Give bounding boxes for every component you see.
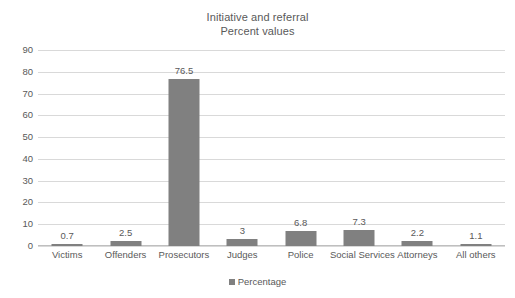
bar[interactable] bbox=[285, 231, 316, 246]
x-axis-tick-label: Police bbox=[272, 249, 330, 261]
x-axis-tick-label: Judges bbox=[213, 249, 271, 261]
legend-swatch-icon bbox=[229, 279, 235, 285]
bar-group: 2.5 bbox=[96, 50, 154, 246]
y-axis-tick-label: 0 bbox=[5, 241, 33, 251]
y-axis: 0102030405060708090 bbox=[0, 50, 33, 246]
bar[interactable] bbox=[460, 244, 491, 246]
bar-value-label: 2.2 bbox=[411, 227, 424, 238]
chart-title: Initiative and referral Percent values bbox=[0, 10, 515, 38]
bar[interactable] bbox=[110, 241, 141, 246]
bar-value-label: 76.5 bbox=[175, 65, 194, 76]
bar-group: 6.8 bbox=[272, 50, 330, 246]
legend-label: Percentage bbox=[238, 276, 287, 287]
y-axis-tick-label: 80 bbox=[5, 67, 33, 77]
bar-group: 3 bbox=[213, 50, 271, 246]
bar[interactable] bbox=[344, 230, 375, 246]
chart-title-line1: Initiative and referral bbox=[207, 11, 309, 23]
chart-legend: Percentage bbox=[0, 276, 515, 287]
y-axis-tick-label: 90 bbox=[5, 45, 33, 55]
bar-value-label: 7.3 bbox=[352, 216, 365, 227]
bar[interactable] bbox=[402, 241, 433, 246]
bar-series-percentage: 0.72.576.536.87.32.21.1 bbox=[38, 50, 505, 246]
bar-group: 0.7 bbox=[38, 50, 96, 246]
x-axis: VictimsOffendersProsecutorsJudgesPoliceS… bbox=[38, 249, 505, 265]
x-axis-tick-label: All others bbox=[447, 249, 505, 261]
y-axis-tick-label: 40 bbox=[5, 154, 33, 164]
bar-value-label: 6.8 bbox=[294, 217, 307, 228]
x-axis-tick-label: Social Services bbox=[330, 249, 388, 261]
bar[interactable] bbox=[168, 79, 199, 246]
bar-value-label: 3 bbox=[240, 225, 245, 236]
bar-group: 7.3 bbox=[330, 50, 388, 246]
y-axis-tick-label: 50 bbox=[5, 132, 33, 142]
bar-group: 1.1 bbox=[447, 50, 505, 246]
bar-chart: Initiative and referral Percent values 0… bbox=[0, 0, 515, 298]
x-axis-tick-label: Prosecutors bbox=[155, 249, 213, 261]
y-axis-tick-label: 30 bbox=[5, 176, 33, 186]
bar-group: 76.5 bbox=[155, 50, 213, 246]
y-axis-tick-label: 70 bbox=[5, 89, 33, 99]
y-axis-tick-label: 20 bbox=[5, 197, 33, 207]
bar-value-label: 0.7 bbox=[61, 230, 74, 241]
bar[interactable] bbox=[52, 244, 83, 246]
x-axis-tick-label: Victims bbox=[38, 249, 96, 261]
y-axis-tick-label: 10 bbox=[5, 219, 33, 229]
bar-value-label: 1.1 bbox=[469, 230, 482, 241]
bar-group: 2.2 bbox=[388, 50, 446, 246]
gridline bbox=[38, 246, 505, 247]
legend-item-percentage: Percentage bbox=[229, 276, 287, 287]
x-axis-tick-label: Attorneys bbox=[388, 249, 446, 261]
bar-value-label: 2.5 bbox=[119, 227, 132, 238]
chart-title-line2: Percent values bbox=[0, 24, 515, 38]
y-axis-tick-label: 60 bbox=[5, 110, 33, 120]
x-axis-tick-label: Offenders bbox=[96, 249, 154, 261]
bar[interactable] bbox=[227, 239, 258, 246]
